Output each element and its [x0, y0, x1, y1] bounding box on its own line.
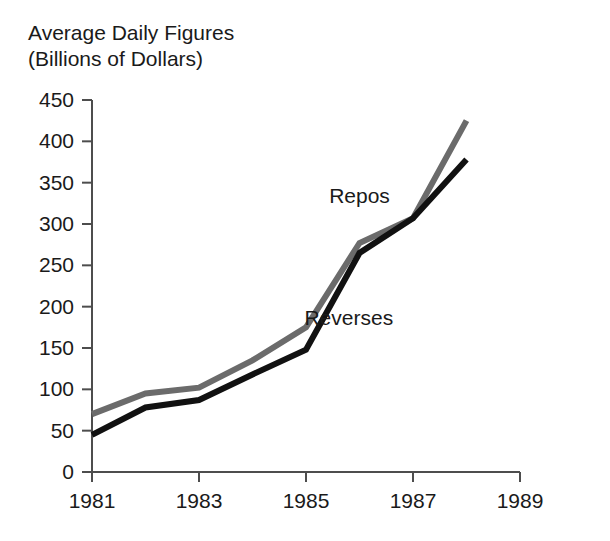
y-tick-label: 200	[39, 295, 74, 318]
y-tick-label: 250	[39, 253, 74, 276]
y-tick-label: 0	[62, 460, 74, 483]
x-axis-tick-labels: 19811983198519871989	[69, 489, 544, 512]
series-line-repos	[92, 121, 467, 414]
chart-axes	[92, 100, 520, 472]
y-axis-tick-labels: 050100150200250300350400450	[39, 88, 74, 483]
x-axis-tick-marks	[92, 472, 520, 482]
y-tick-label: 350	[39, 171, 74, 194]
x-tick-label: 1987	[390, 489, 437, 512]
y-tick-label: 100	[39, 377, 74, 400]
chart-figure: Average Daily Figures (Billions of Dolla…	[0, 0, 610, 541]
y-tick-label: 50	[51, 419, 74, 442]
x-tick-label: 1989	[497, 489, 544, 512]
y-tick-label: 300	[39, 212, 74, 235]
line-chart-plot: 050100150200250300350400450 198119831985…	[0, 0, 610, 541]
y-tick-label: 150	[39, 336, 74, 359]
y-tick-label: 400	[39, 129, 74, 152]
x-tick-label: 1985	[283, 489, 330, 512]
series-label-reverses: Reverses	[304, 306, 393, 329]
y-axis-tick-marks	[82, 100, 92, 472]
y-tick-label: 450	[39, 88, 74, 111]
chart-series-group	[92, 121, 467, 435]
x-tick-label: 1983	[176, 489, 223, 512]
x-tick-label: 1981	[69, 489, 116, 512]
series-label-repos: Repos	[329, 184, 390, 207]
